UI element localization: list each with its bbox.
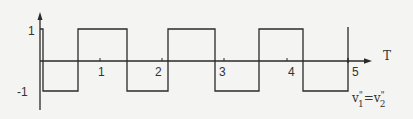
x-tick-label-5: 5: [352, 65, 359, 79]
y-tick-label-1: 1: [28, 24, 35, 38]
x-tick-label-4: 4: [288, 65, 295, 79]
waveform-label: v"1=v"2: [351, 90, 385, 109]
v2-subscript: 2: [380, 99, 386, 109]
y-tick-label-neg1: -1: [17, 85, 28, 99]
x-axis-label: T: [383, 49, 391, 63]
square-waveform: [40, 27, 348, 91]
square-wave-diagram: 1 -1 1 2 3 4 5 T v"1=v"2: [0, 0, 413, 119]
x-tick-label-2: 2: [155, 65, 162, 79]
x-tick-label-1: 1: [98, 65, 105, 79]
x-tick-label-3: 3: [219, 65, 226, 79]
y-axis-arrow-icon: [38, 12, 43, 20]
x-axis-arrow-icon: [364, 58, 372, 63]
equals-sign: =: [364, 91, 374, 105]
